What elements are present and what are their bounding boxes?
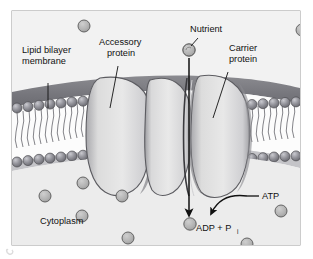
adp-label: ADP + P — [196, 223, 231, 233]
carrier-protein-label-line2: protein — [229, 54, 257, 64]
accessory-protein-label-line2: protein — [107, 48, 135, 58]
particle — [122, 232, 134, 244]
lipid-bilayer-label-line2: membrane — [22, 56, 66, 66]
atp-label: ATP — [262, 191, 279, 201]
nutrient-particle — [183, 44, 195, 56]
nutrient-label: Nutrient — [190, 24, 223, 34]
accessory-protein-body — [86, 77, 152, 195]
diagram-figure: Lipid bilayer membrane Accessory protein… — [0, 0, 313, 259]
particle — [116, 190, 128, 202]
carrier-protein-label-line1: Carrier — [229, 43, 257, 53]
carrier-protein-body — [191, 75, 250, 197]
accessory-protein-label-line1: Accessory — [99, 37, 142, 47]
adp-subscript: i — [237, 228, 238, 235]
particle — [275, 205, 287, 217]
membrane-transport-diagram: Lipid bilayer membrane Accessory protein… — [0, 0, 313, 259]
particle — [39, 190, 51, 202]
particle — [78, 20, 90, 32]
cytoplasm-label: Cytoplasm — [40, 216, 84, 226]
particle — [77, 177, 89, 189]
transported-nutrient-particle — [184, 218, 196, 230]
lipid-bilayer-label-line1: Lipid bilayer — [22, 45, 71, 55]
